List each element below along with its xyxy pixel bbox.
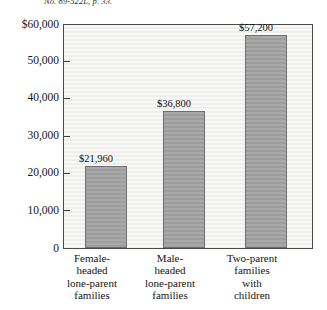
x-axis-category-2-line-4: families [130,289,210,301]
x-axis-category-2-line-1: Male- [130,252,210,264]
x-axis-category-3-line-4: children [212,289,292,301]
bar-chart-figure: No. 89-522L, p. 33. $60,000 50,000 40,00… [0,0,327,310]
x-axis-category-1: Female- headed lone-parent families [52,252,132,302]
bar-value-label-3: $57,200 [220,23,292,34]
y-axis-label-40000: 40,000 [27,92,59,104]
x-axis-category-3: Two-parent families with children [212,252,292,302]
y-tick-40000 [64,98,70,99]
y-axis-label-50000: 50,000 [27,55,59,67]
x-axis-category-3-line-1: Two-parent [212,252,292,264]
bar-value-label-1: $21,960 [60,154,132,165]
y-axis-label-10000: 10,000 [27,205,59,217]
source-note: No. 89-522L, p. 33. [44,0,112,6]
x-axis-category-2-line-3: lone-parent [130,277,210,289]
x-axis-category-3-line-3: with [212,277,292,289]
x-axis-category-2: Male- headed lone-parent families [130,252,210,302]
bar-female-headed-lone-parent-families [85,166,127,248]
bar-two-parent-families-with-children [245,35,287,248]
bar-value-label-2: $36,800 [138,99,210,110]
y-tick-50000 [64,61,70,62]
y-axis-label-20000: 20,000 [27,167,59,179]
x-axis-category-1-line-3: lone-parent [52,277,132,289]
y-tick-30000 [64,136,70,137]
y-axis-label-30000: 30,000 [27,130,59,142]
x-axis-category-1-line-4: families [52,289,132,301]
y-tick-10000 [64,210,70,211]
plot-area [63,24,313,249]
x-axis-category-1-line-1: Female- [52,252,132,264]
bar-male-headed-lone-parent-families [163,111,205,248]
x-axis-category-3-line-2: families [212,264,292,276]
y-tick-20000 [64,173,70,174]
x-axis-category-1-line-2: headed [52,264,132,276]
x-axis-category-2-line-2: headed [130,264,210,276]
y-axis-label-60000: $60,000 [22,19,59,31]
